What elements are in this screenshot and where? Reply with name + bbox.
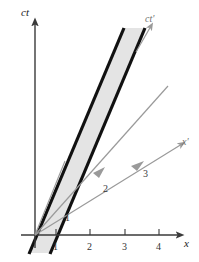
x-tick-label-3: 3: [122, 241, 127, 252]
spacetime-diagram: ct x ct' x' 1 2 3 4 1 2 3: [0, 0, 199, 262]
x-tick-label-1: 1: [53, 241, 58, 252]
band-left-edge: [29, 28, 124, 254]
x-axis-ticks: [56, 229, 159, 235]
worldline-2-label: 2: [103, 183, 108, 194]
worldline-3-label: 3: [143, 168, 148, 179]
ct-axis-label: ct: [21, 6, 30, 18]
worldline-1-label: 1: [65, 212, 70, 223]
x-tick-label-4: 4: [156, 241, 161, 252]
x-prime-axis-label: x': [181, 136, 189, 147]
band-shaded-region: [30, 28, 145, 253]
x-axis-label: x: [183, 237, 189, 249]
x-tick-label-2: 2: [87, 241, 92, 252]
ct-prime-axis-label: ct': [145, 13, 155, 24]
diagram-canvas: ct x ct' x' 1 2 3 4 1 2 3: [0, 0, 199, 262]
